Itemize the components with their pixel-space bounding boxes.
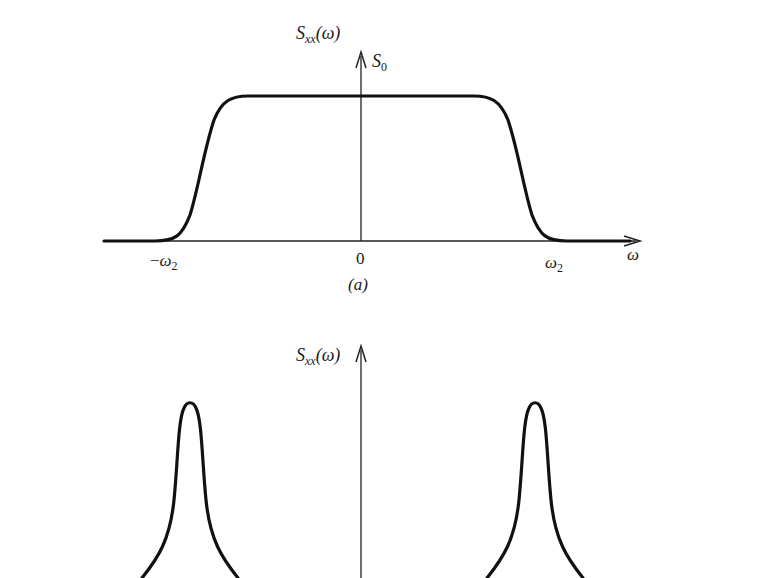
tick-sub: 2	[557, 261, 563, 275]
psd-peak-left	[142, 403, 238, 578]
level-label-sub: 0	[381, 60, 387, 74]
tick-label-zero: 0	[356, 250, 365, 267]
psd-peak-right	[487, 403, 583, 578]
y-axis-label-b: Sxx(ω)	[296, 346, 340, 367]
y-label-main: S	[296, 23, 305, 43]
level-label-main: S	[372, 51, 381, 71]
y-label-main: S	[296, 345, 305, 365]
y-axis-label-a: Sxx(ω)	[296, 24, 340, 45]
tick-main: ω	[160, 251, 172, 270]
tick-label-neg-omega2: −ω2	[150, 252, 178, 272]
plot-canvas	[0, 0, 768, 578]
caption-text: (a)	[348, 275, 368, 294]
level-label-s0: S0	[372, 52, 387, 73]
y-label-sub: xx	[305, 354, 316, 368]
psd-curve-a	[104, 96, 630, 241]
panel-caption-a: (a)	[348, 276, 368, 293]
tick-main: 0	[356, 249, 365, 268]
y-label-arg: (ω)	[316, 345, 341, 365]
tick-prefix: −	[150, 251, 160, 270]
tick-sub: 2	[172, 259, 178, 273]
tick-main: ω	[545, 253, 557, 272]
figure: Sxx(ω) S0 −ω2 0 ω2 ω (a) Sxx(ω)	[0, 0, 768, 578]
tick-label-omega2: ω2	[545, 254, 563, 274]
y-label-arg: (ω)	[316, 23, 341, 43]
x-label-text: ω	[627, 245, 639, 264]
x-axis-label-a: ω	[627, 246, 639, 263]
y-label-sub: xx	[305, 32, 316, 46]
